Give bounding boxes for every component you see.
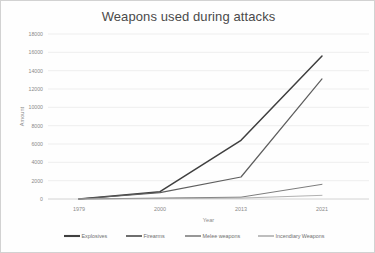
y-axis-tick-label: 10000 — [29, 104, 44, 110]
gridlines — [48, 34, 369, 199]
y-axis-tick-label: 14000 — [29, 68, 44, 74]
y-axis-tick-label: 4000 — [31, 159, 43, 165]
y-axis-ticks: 0200040006000800010000120001400016000180… — [29, 31, 44, 202]
x-axis-tick-label: 1979 — [73, 206, 85, 212]
legend-label[interactable]: Explosives — [82, 233, 108, 239]
x-axis-tick-label: 2021 — [316, 206, 328, 212]
data-series — [79, 56, 322, 199]
series-line-explosives — [79, 56, 322, 199]
y-axis-tick-label: 6000 — [31, 141, 43, 147]
legend-label[interactable]: Firearms — [144, 233, 166, 239]
y-axis-tick-label: 16000 — [29, 49, 44, 55]
y-axis-tick-label: 2000 — [31, 178, 43, 184]
x-axis-ticks: 1979200020132021 — [73, 206, 328, 212]
series-line-firearms — [79, 79, 322, 199]
y-axis-tick-label: 8000 — [31, 123, 43, 129]
line-chart-plot: 0200040006000800010000120001400016000180… — [1, 1, 375, 253]
legend-label[interactable]: Incendiary Weapons — [276, 233, 325, 239]
y-axis-tick-label: 12000 — [29, 86, 44, 92]
chart-container: Weapons used during attacks 020004000600… — [0, 0, 375, 253]
y-axis-tick-label: 0 — [40, 196, 43, 202]
x-axis-title: Year — [203, 217, 214, 223]
axis-titles: YearAmount — [19, 106, 214, 223]
y-axis-tick-label: 18000 — [29, 31, 44, 37]
x-axis-tick-label: 2000 — [154, 206, 166, 212]
chart-legend: ExplosivesFirearmsMelee weaponsIncendiar… — [64, 233, 325, 239]
y-axis-title: Amount — [19, 106, 25, 126]
legend-label[interactable]: Melee weapons — [203, 233, 241, 239]
x-axis-tick-label: 2013 — [235, 206, 247, 212]
